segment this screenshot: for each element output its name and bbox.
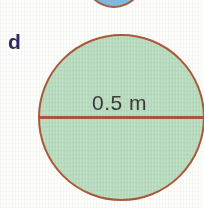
diameter-dimension-label: 0.5 m — [92, 92, 147, 113]
part-label-d: d — [8, 31, 21, 52]
partial-blue-circle-shape — [82, 0, 146, 8]
geometry-figure-panel: d 0.5 m — [0, 0, 204, 208]
diameter-line — [38, 116, 204, 119]
